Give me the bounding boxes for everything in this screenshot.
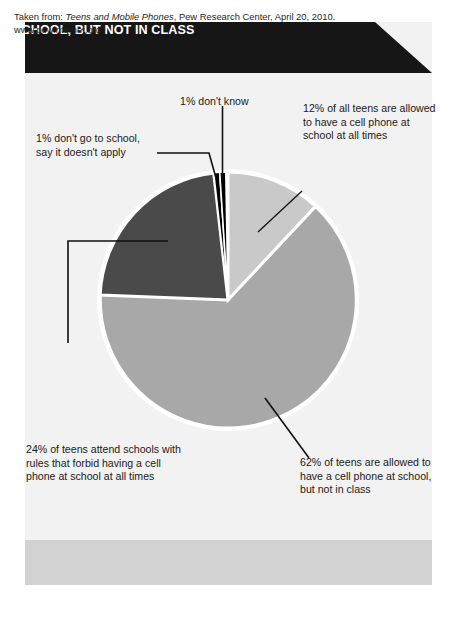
callout-12-percent: 12% of all teens are allowed to have a c… bbox=[303, 102, 441, 143]
infographic-root: MAJORITY OF TEENS CAN HAVE CELL PHONES A… bbox=[0, 0, 453, 622]
pie-slice-24-percent-body bbox=[100, 173, 228, 300]
source-title: Teens and Mobile Phones bbox=[66, 11, 174, 22]
callout-no-school: 1% don't go to school, say it doesn't ap… bbox=[36, 132, 156, 159]
source-suffix: , Pew Research Center, April 20, 2010. bbox=[174, 11, 336, 22]
source-text: Taken from: Teens and Mobile Phones, Pew… bbox=[14, 10, 394, 36]
source-band bbox=[25, 540, 432, 585]
callout-dont-know: 1% don't know bbox=[180, 95, 300, 109]
source-prefix: Taken from: bbox=[14, 11, 66, 22]
source-url: www.pewinternet.org. bbox=[14, 24, 104, 35]
callout-62-percent: 62% of teens are allowed to have a cell … bbox=[300, 456, 440, 497]
callout-24-percent: 24% of teens attend schools with rules t… bbox=[26, 443, 186, 484]
